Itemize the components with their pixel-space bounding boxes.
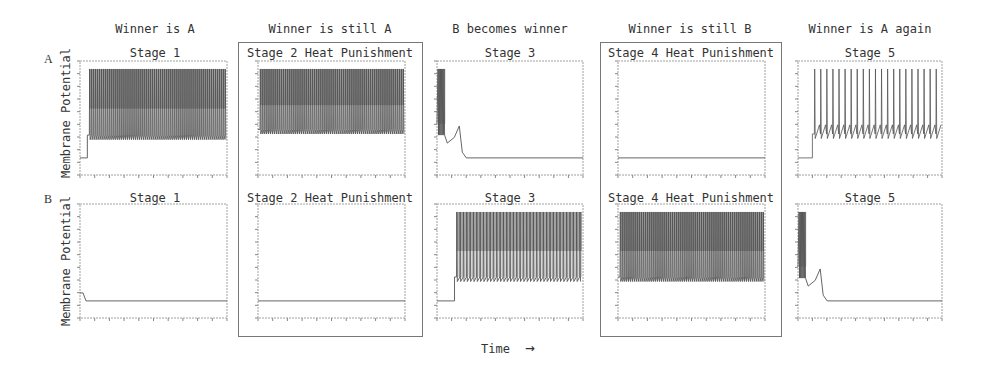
- plot-b3: [437, 204, 583, 318]
- stage-title-a2: Stage 2 Heat Punishment: [240, 46, 420, 60]
- column-header-5: Winner is A again: [805, 22, 935, 36]
- plot-b1: [80, 204, 227, 318]
- stage-title-a4: Stage 4 Heat Punishment: [602, 46, 780, 60]
- plot-a2: [258, 61, 405, 175]
- arrow-right-icon: →: [525, 338, 535, 357]
- stage-title-b2: Stage 2 Heat Punishment: [240, 191, 420, 205]
- plot-a5: [798, 61, 942, 175]
- plot-a4: [618, 61, 765, 175]
- time-label: Time: [481, 342, 510, 356]
- stage-title-a3: Stage 3: [460, 46, 560, 60]
- column-header-2: Winner is still A: [265, 22, 395, 36]
- plot-a1: [80, 61, 227, 175]
- column-header-3: B becomes winner: [445, 22, 575, 36]
- y-axis-label-row-a: Membrane Potential: [59, 48, 73, 178]
- plot-a3: [437, 61, 583, 175]
- stage-title-b5: Stage 5: [820, 191, 920, 205]
- column-header-1: Winner is A: [100, 22, 210, 36]
- y-axis-label-row-b: Membrane Potential: [59, 196, 73, 326]
- column-header-4: Winner is still B: [625, 22, 755, 36]
- stage-title-b3: Stage 3: [460, 191, 560, 205]
- row-label-a: A: [44, 52, 53, 67]
- stage-title-a5: Stage 5: [820, 46, 920, 60]
- plot-b2: [258, 204, 405, 318]
- row-label-b: B: [44, 192, 52, 207]
- stage-title-b1: Stage 1: [105, 191, 205, 205]
- stage-title-b4: Stage 4 Heat Punishment: [602, 191, 780, 205]
- plot-b5: [798, 204, 942, 318]
- x-axis-label: Time →: [481, 338, 535, 357]
- stage-title-a1: Stage 1: [105, 46, 205, 60]
- plot-b4: [618, 204, 765, 318]
